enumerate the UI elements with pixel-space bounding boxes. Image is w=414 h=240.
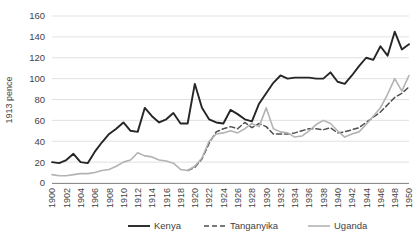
legend-label-kenya[interactable]: Kenya bbox=[154, 220, 182, 231]
y-axis-tick-label: 40 bbox=[34, 136, 45, 147]
series-line-kenya bbox=[52, 32, 409, 164]
legend-label-tanganyika[interactable]: Tanganyika bbox=[230, 220, 279, 231]
y-axis-tick-label: 80 bbox=[34, 94, 45, 105]
gridlines-group bbox=[52, 16, 409, 183]
x-axis-tick-label: 1902 bbox=[62, 188, 72, 208]
data-series-group bbox=[52, 32, 409, 176]
x-axis-tick-label: 1936 bbox=[304, 188, 314, 208]
x-axis-tick-label: 1912 bbox=[133, 188, 143, 208]
x-axis-tick-label: 1914 bbox=[147, 188, 157, 208]
x-axis-tick-label: 1908 bbox=[105, 188, 115, 208]
x-axis-tick-label: 1928 bbox=[247, 188, 257, 208]
y-axis-tick-label: 0 bbox=[40, 177, 45, 188]
x-axis-tick-label: 1930 bbox=[262, 188, 272, 208]
series-line-uganda bbox=[52, 75, 409, 175]
x-axis-tick-label: 1924 bbox=[219, 188, 229, 208]
line-chart: 020406080100120140160 190019021904190619… bbox=[0, 0, 414, 240]
x-axis-tick-label: 1922 bbox=[204, 188, 214, 208]
x-axis-tick-label: 1926 bbox=[233, 188, 243, 208]
y-axis-tick-label: 160 bbox=[29, 10, 45, 21]
y-axis-title: 1913 pence bbox=[4, 76, 14, 123]
x-axis-tick-label: 1906 bbox=[90, 188, 100, 208]
x-axis-tick-label: 1934 bbox=[290, 188, 300, 208]
y-axis-tick-label: 140 bbox=[29, 31, 45, 42]
x-axis-tick-label: 1948 bbox=[390, 188, 400, 208]
x-axis-tick-labels: 1900190219041906190819101912191419161918… bbox=[47, 188, 414, 208]
x-axis-tick-label: 1944 bbox=[362, 188, 372, 208]
x-axis-tick-label: 1904 bbox=[76, 188, 86, 208]
x-axis-tick-label: 1950 bbox=[404, 188, 414, 208]
chart-legend: KenyaTanganyikaUganda bbox=[128, 220, 368, 231]
x-axis-tick-label: 1940 bbox=[333, 188, 343, 208]
legend-label-uganda[interactable]: Uganda bbox=[334, 220, 368, 231]
x-axis-tick-label: 1938 bbox=[319, 188, 329, 208]
y-axis-tick-labels: 020406080100120140160 bbox=[29, 10, 45, 188]
x-axis-tick-label: 1916 bbox=[162, 188, 172, 208]
y-axis-tick-label: 120 bbox=[29, 52, 45, 63]
x-axis-tick-label: 1918 bbox=[176, 188, 186, 208]
x-axis-tick-label: 1942 bbox=[347, 188, 357, 208]
chart-container: 020406080100120140160 190019021904190619… bbox=[0, 0, 414, 240]
x-axis-tick-label: 1946 bbox=[376, 188, 386, 208]
y-axis-tick-label: 20 bbox=[34, 157, 45, 168]
y-axis-tick-label: 60 bbox=[34, 115, 45, 126]
x-axis-tick-label: 1910 bbox=[119, 188, 129, 208]
y-axis-tick-label: 100 bbox=[29, 73, 45, 84]
x-axis-tick-label: 1920 bbox=[190, 188, 200, 208]
x-axis-tick-label: 1932 bbox=[276, 188, 286, 208]
x-axis-tick-label: 1900 bbox=[47, 188, 57, 208]
